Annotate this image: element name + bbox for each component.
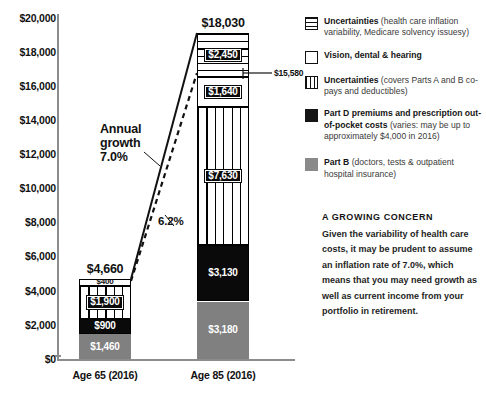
bar-segment-uncertainties-copays: $7,630 xyxy=(197,107,249,245)
note-body: Given the variability of health care cos… xyxy=(322,227,482,320)
bar-segment-label: $2,450 xyxy=(205,49,240,62)
x-axis-origin-tick xyxy=(55,355,61,357)
bar-total-label-age-65: $4,660 xyxy=(87,262,123,276)
legend-item-label: Part B xyxy=(324,157,349,167)
y-axis-labels: $20,000 $18,000 $16,000 $14,000 $12,000 … xyxy=(0,0,56,401)
legend-item-vision-dental-hearing: Vision, dental & hearing xyxy=(305,50,483,64)
bar-age-85: $2,450 $1,640 $7,630 $3,130 $3,180 xyxy=(197,33,249,359)
y-axis-line xyxy=(57,14,59,360)
intermediate-marker-label: $15,580 xyxy=(274,68,303,78)
annual-growth-line-2: growth xyxy=(100,136,141,150)
annual-growth-line-1: Annual xyxy=(100,122,141,136)
x-axis-label-age-65: Age 65 (2016) xyxy=(72,369,137,381)
legend-item-part-d: Part D premiums and prescription out-of-… xyxy=(305,108,483,142)
y-tick-label: $16,000 xyxy=(2,80,56,92)
gray-swatch-icon xyxy=(305,158,318,171)
y-tick-label: $2,000 xyxy=(2,319,56,331)
bar-segment-uncertainties-inflation: $2,450 xyxy=(197,33,249,77)
legend: Uncertainties (health care inflation var… xyxy=(305,16,483,191)
annual-growth-leader xyxy=(144,152,160,166)
x-axis-label-age-85: Age 85 (2016) xyxy=(190,369,255,381)
lower-growth-annotation: 6.2% xyxy=(158,215,183,227)
growing-concern-note: A GROWING CONCERN Given the variability … xyxy=(322,212,482,320)
bar-segment-part-d: $3,130 xyxy=(197,245,249,302)
y-tick-label: $0 xyxy=(2,353,56,365)
bar-total-label-age-85: $18,030 xyxy=(201,16,244,30)
note-title: A GROWING CONCERN xyxy=(322,212,482,222)
legend-item-part-b: Part B (doctors, tests & outpatient hosp… xyxy=(305,157,483,180)
y-tick-label: $8,000 xyxy=(2,216,56,228)
horizontal-stripe-swatch-icon xyxy=(305,17,318,30)
legend-item-label: Uncertainties xyxy=(324,16,378,26)
legend-item-uncertainties-copays: Uncertainties (covers Parts A and B co-p… xyxy=(305,75,483,98)
bar-segment-part-b: $3,180 xyxy=(197,302,249,360)
legend-item-label: Uncertainties xyxy=(324,75,378,85)
growth-line-dashed xyxy=(131,73,197,281)
bar-segment-label: $1,640 xyxy=(205,86,240,99)
y-tick-label: $14,000 xyxy=(2,114,56,126)
bar-segment-label: $1,900 xyxy=(87,296,122,309)
y-tick-label: $6,000 xyxy=(2,250,56,262)
bar-segment-uncertainties-copays: $1,900 xyxy=(79,286,131,319)
white-swatch-icon xyxy=(305,51,318,64)
bar-segment-vision-dental-hearing: $1,640 xyxy=(197,77,249,107)
bar-segment-vision-dental-hearing: $400 xyxy=(79,279,131,286)
bar-segment-label: $7,630 xyxy=(205,170,240,183)
legend-item-uncertainties-inflation: Uncertainties (health care inflation var… xyxy=(305,16,483,39)
legend-item-label: Vision, dental & hearing xyxy=(324,50,422,60)
y-tick-label: $4,000 xyxy=(2,285,56,297)
y-tick-label: $20,000 xyxy=(2,12,56,24)
bar-segment-label: $1,460 xyxy=(88,342,121,353)
bar-segment-part-b: $1,460 xyxy=(79,334,131,359)
bar-segment-label: $3,130 xyxy=(206,268,239,279)
y-tick-label: $18,000 xyxy=(2,46,56,58)
y-tick-label: $10,000 xyxy=(2,182,56,194)
chart-container: $20,000 $18,000 $16,000 $14,000 $12,000 … xyxy=(0,0,486,401)
bar-segment-label: $3,180 xyxy=(206,325,239,336)
vertical-stripe-swatch-icon xyxy=(305,76,318,89)
bar-segment-label: $900 xyxy=(92,321,117,332)
y-tick-label: $12,000 xyxy=(2,148,56,160)
black-swatch-icon xyxy=(305,109,318,122)
plot-area: $20,000 $18,000 $16,000 $14,000 $12,000 … xyxy=(0,0,300,401)
annual-growth-line-3: 7.0% xyxy=(100,150,141,164)
bar-age-65: $400 $1,900 $900 $1,460 xyxy=(79,279,131,359)
bar-segment-part-d: $900 xyxy=(79,319,131,335)
annual-growth-annotation: Annual growth 7.0% xyxy=(100,122,141,164)
